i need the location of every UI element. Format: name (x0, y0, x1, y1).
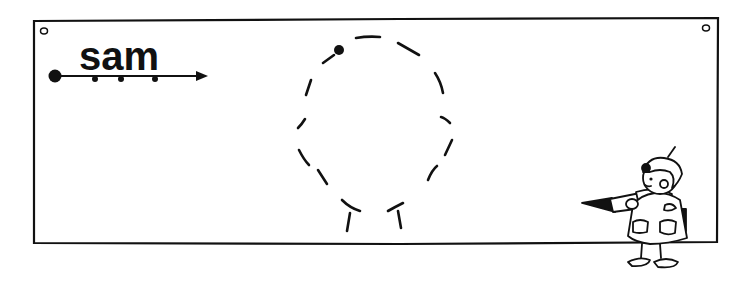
target-word: sam (79, 36, 159, 76)
arrow-head-icon (196, 71, 208, 81)
child-with-pencil-illustration (582, 147, 687, 267)
trace-start-dot-icon (334, 45, 344, 55)
worksheet-page: sam (0, 0, 747, 281)
hole-top-right-icon (703, 25, 710, 31)
hole-top-left-icon (41, 28, 48, 34)
dashed-head-outline (298, 37, 452, 231)
